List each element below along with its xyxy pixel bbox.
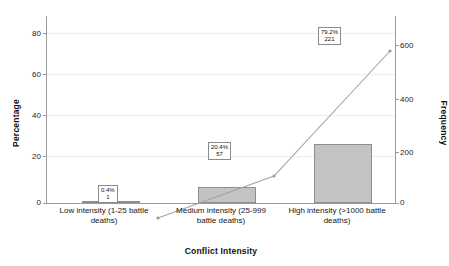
y-right-tick-400: 400 bbox=[400, 95, 426, 104]
x-axis-title: Conflict Intensity bbox=[47, 246, 395, 256]
y-right-tickmark-400 bbox=[396, 99, 399, 100]
x-category-label-high: High intensity (>1000 battle deaths) bbox=[283, 206, 391, 226]
data-label-low-percentage: 0.4% bbox=[101, 187, 115, 194]
data-label-low-count: 1 bbox=[101, 194, 115, 201]
data-label-low: 0.4% 1 bbox=[98, 185, 118, 203]
y-left-tickmark-80 bbox=[43, 33, 46, 34]
y-left-tick-20: 20 bbox=[15, 152, 41, 161]
y-left-tick-0: 0 bbox=[15, 198, 41, 207]
x-category-label-low: Low intensity (1-25 battle deaths) bbox=[50, 206, 158, 226]
y-left-tickmark-20 bbox=[43, 156, 46, 157]
data-label-medium-percentage: 20.4% bbox=[211, 144, 228, 151]
y-axis-left-title: Percentage bbox=[11, 88, 21, 158]
y-right-tickmark-600 bbox=[396, 45, 399, 46]
data-label-high-count: 221 bbox=[321, 36, 338, 43]
data-label-high-percentage: 79.2% bbox=[321, 29, 338, 36]
plot-area bbox=[47, 16, 395, 203]
percentage-line-series bbox=[94, 32, 442, 219]
line-marker-high bbox=[388, 49, 391, 52]
line-marker-medium bbox=[272, 174, 275, 177]
line-path bbox=[158, 51, 390, 218]
y-right-tickmark-200 bbox=[396, 152, 399, 153]
y-left-tick-40: 40 bbox=[15, 111, 41, 120]
y-right-tickmark-0 bbox=[396, 203, 399, 204]
y-axis-left-line bbox=[46, 16, 47, 204]
data-label-medium: 20.4% 57 bbox=[208, 142, 231, 160]
y-right-tick-200: 200 bbox=[400, 148, 426, 157]
data-label-medium-count: 57 bbox=[211, 151, 228, 158]
y-left-tickmark-0 bbox=[43, 203, 46, 204]
x-axis-line bbox=[46, 203, 396, 204]
y-left-tick-60: 60 bbox=[15, 70, 41, 79]
y-left-tickmark-60 bbox=[43, 74, 46, 75]
y-left-tick-80: 80 bbox=[15, 29, 41, 38]
y-left-tickmark-40 bbox=[43, 115, 46, 116]
x-category-label-medium: Medium intensity (25-999 battle deaths) bbox=[166, 206, 276, 226]
y-right-tick-0: 0 bbox=[400, 198, 426, 207]
y-right-tick-600: 600 bbox=[400, 41, 426, 50]
data-label-high: 79.2% 221 bbox=[318, 27, 341, 45]
